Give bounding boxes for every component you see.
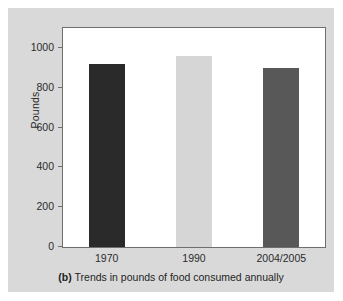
y-axis-label: Pounds bbox=[29, 65, 41, 155]
plot-area: 02004006008001000 bbox=[63, 28, 325, 247]
bar-1990 bbox=[176, 56, 212, 247]
bar-1970 bbox=[89, 64, 125, 247]
y-tick-mark bbox=[58, 246, 63, 247]
bar-2004-2005 bbox=[263, 68, 299, 247]
x-tick-label: 1990 bbox=[144, 252, 244, 264]
y-tick-mark bbox=[58, 127, 63, 128]
y-tick-mark bbox=[58, 206, 63, 207]
caption-tag: (b) bbox=[58, 271, 71, 283]
figure-caption: (b) Trends in pounds of food consumed an… bbox=[8, 271, 334, 283]
y-tick-mark bbox=[58, 166, 63, 167]
figure-card: 02004006008001000 Pounds 197019902004/20… bbox=[8, 8, 334, 292]
y-tick-label: 0 bbox=[48, 240, 54, 252]
y-tick-mark bbox=[58, 47, 63, 48]
y-tick-label: 400 bbox=[36, 160, 54, 172]
x-tick-label: 1970 bbox=[57, 252, 157, 264]
y-tick-label: 1000 bbox=[31, 41, 54, 53]
y-tick-mark bbox=[58, 87, 63, 88]
caption-text: Trends in pounds of food consumed annual… bbox=[75, 271, 284, 283]
y-tick-label: 200 bbox=[36, 200, 54, 212]
x-tick-label: 2004/2005 bbox=[231, 252, 331, 264]
plot-frame: 02004006008001000 bbox=[62, 27, 326, 248]
